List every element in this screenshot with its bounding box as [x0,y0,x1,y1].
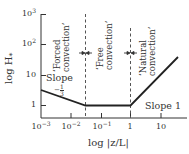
x-tick-label-1: 1 [118,123,142,131]
slope-left-value: −13 [54,84,64,97]
y-axis-title: log H* [3,52,18,84]
x-tick-label-0.001: 10−3 [29,123,53,131]
x-tick-label-10: 10 [149,123,173,131]
x-axis-title: log |z/L| [88,137,129,148]
slope-left-label: Slope [46,73,73,83]
x-tick-label-0.01: 10−2 [59,123,83,131]
x-tick-label-0.1: 10−1 [90,123,114,131]
label-free-convection: ‘Free convection’ [96,21,114,70]
y-tick-label-1: 1 [14,101,36,109]
slope-right-label: Slope 1 [145,101,181,111]
y-tick-label-100: 102 [14,40,36,48]
label-forced-convection: ‘Forced convection’ [53,23,71,72]
label-natural-convection: ‘Natural convection’ [139,27,157,76]
y-tick-label-1000: 103 [14,10,36,18]
